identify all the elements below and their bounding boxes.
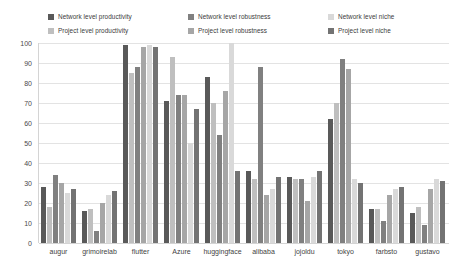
bar[interactable] xyxy=(182,95,187,243)
bar[interactable] xyxy=(434,179,439,243)
bar[interactable] xyxy=(340,59,345,243)
bar[interactable] xyxy=(252,179,257,243)
bar[interactable] xyxy=(53,175,58,243)
legend-swatch-icon xyxy=(188,28,194,34)
y-axis-tick-label: 100 xyxy=(20,40,32,47)
bar[interactable] xyxy=(264,195,269,243)
y-axis-tick-label: 20 xyxy=(24,200,32,207)
bar[interactable] xyxy=(358,183,363,243)
bar[interactable] xyxy=(410,213,415,243)
bar[interactable] xyxy=(317,171,322,243)
bar[interactable] xyxy=(375,209,380,243)
bar[interactable] xyxy=(71,189,76,243)
legend-label: Network level robustness xyxy=(198,14,271,20)
bar[interactable] xyxy=(211,103,216,243)
bar[interactable] xyxy=(65,193,70,243)
y-axis-tick-label: 50 xyxy=(24,140,32,147)
legend-item[interactable]: Network level robustness xyxy=(188,10,328,24)
bar[interactable] xyxy=(153,47,158,243)
legend-label: Network level productivity xyxy=(58,14,132,20)
x-axis-label: Azure xyxy=(161,248,202,268)
legend-item[interactable]: Project level robustness xyxy=(188,24,328,38)
x-axis-label: farbsto xyxy=(366,248,407,268)
bar-group xyxy=(202,43,243,243)
legend-label: Project level robustness xyxy=(198,28,267,34)
x-axis-label: huggingface xyxy=(202,248,243,268)
bar[interactable] xyxy=(176,95,181,243)
legend-swatch-icon xyxy=(48,28,54,34)
bar[interactable] xyxy=(82,211,87,243)
bar[interactable] xyxy=(258,67,263,243)
bar[interactable] xyxy=(129,73,134,243)
bar[interactable] xyxy=(223,91,228,243)
bar[interactable] xyxy=(59,183,64,243)
y-axis-tick-label: 60 xyxy=(24,120,32,127)
bar-group xyxy=(325,43,366,243)
bar[interactable] xyxy=(381,221,386,243)
bar[interactable] xyxy=(135,67,140,243)
bar[interactable] xyxy=(369,209,374,243)
bar[interactable] xyxy=(194,109,199,243)
bar[interactable] xyxy=(94,231,99,243)
bar[interactable] xyxy=(334,103,339,243)
bar[interactable] xyxy=(88,209,93,243)
bar-group xyxy=(366,43,407,243)
x-axis-label: augur xyxy=(38,248,79,268)
bar-group xyxy=(120,43,161,243)
bar[interactable] xyxy=(293,179,298,243)
y-axis-ticks: 0102030405060708090100 xyxy=(0,43,36,243)
bar[interactable] xyxy=(270,189,275,243)
bar[interactable] xyxy=(170,57,175,243)
bar[interactable] xyxy=(112,191,117,243)
x-axis-label: jojoldu xyxy=(284,248,325,268)
chart-legend: Network level productivityProject level … xyxy=(48,10,448,40)
y-axis-tick-label: 0 xyxy=(28,240,32,247)
x-axis-label: gustavo xyxy=(407,248,448,268)
bar[interactable] xyxy=(328,119,333,243)
bar[interactable] xyxy=(311,177,316,243)
bar[interactable] xyxy=(422,225,427,243)
bar[interactable] xyxy=(229,43,234,243)
bar[interactable] xyxy=(428,189,433,243)
bar[interactable] xyxy=(352,179,357,243)
bar[interactable] xyxy=(141,47,146,243)
bar[interactable] xyxy=(416,207,421,243)
bar[interactable] xyxy=(188,143,193,243)
bar[interactable] xyxy=(100,203,105,243)
bar[interactable] xyxy=(387,195,392,243)
legend-label: Project level productivity xyxy=(58,28,128,34)
y-axis-tick-label: 80 xyxy=(24,80,32,87)
bar-group xyxy=(161,43,202,243)
y-axis-tick-label: 40 xyxy=(24,160,32,167)
bar[interactable] xyxy=(123,45,128,243)
bar[interactable] xyxy=(287,177,292,243)
bar[interactable] xyxy=(246,171,251,243)
legend-label: Project level niche xyxy=(338,28,391,34)
bar[interactable] xyxy=(47,207,52,243)
bar[interactable] xyxy=(41,187,46,243)
bar[interactable] xyxy=(440,181,445,243)
legend-item[interactable]: Project level niche xyxy=(328,24,448,38)
x-axis-label: alibaba xyxy=(243,248,284,268)
y-axis-tick-label: 90 xyxy=(24,60,32,67)
bar[interactable] xyxy=(106,195,111,243)
legend-item[interactable]: Project level productivity xyxy=(48,24,188,38)
y-axis-tick-label: 70 xyxy=(24,100,32,107)
bar[interactable] xyxy=(305,201,310,243)
bar[interactable] xyxy=(399,187,404,243)
legend-swatch-icon xyxy=(48,14,54,20)
bar[interactable] xyxy=(346,69,351,243)
bar[interactable] xyxy=(217,135,222,243)
bar[interactable] xyxy=(393,189,398,243)
bar[interactable] xyxy=(299,179,304,243)
bar[interactable] xyxy=(147,45,152,243)
legend-item[interactable]: Network level productivity xyxy=(48,10,188,24)
bar-group xyxy=(243,43,284,243)
bar-group xyxy=(407,43,448,243)
bar-group xyxy=(38,43,79,243)
legend-item[interactable]: Network level niche xyxy=(328,10,448,24)
bar[interactable] xyxy=(164,101,169,243)
bar[interactable] xyxy=(205,77,210,243)
bar[interactable] xyxy=(276,177,281,243)
bar[interactable] xyxy=(235,171,240,243)
